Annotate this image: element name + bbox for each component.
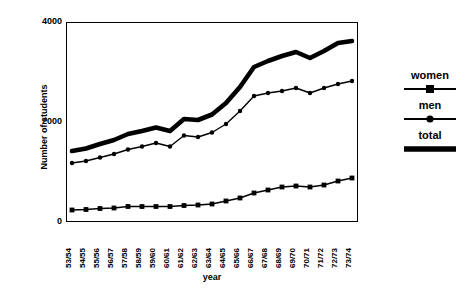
x-tick-label: 72/73 — [328, 226, 342, 268]
x-tick-label: 58/59 — [132, 226, 146, 268]
data-point-men — [252, 94, 256, 98]
x-tick-label: 70/71 — [300, 226, 314, 268]
data-point-women — [140, 204, 145, 209]
legend-sample-women — [386, 82, 474, 96]
data-point-men — [224, 122, 228, 126]
x-tick-label: 54/55 — [76, 226, 90, 268]
x-tick-label: 57/58 — [118, 226, 132, 268]
data-point-women — [252, 191, 257, 196]
data-point-men — [98, 155, 102, 159]
x-tick-label: 60/61 — [160, 226, 174, 268]
chart-legend: women men total — [386, 66, 474, 156]
legend-sample-total — [386, 142, 474, 156]
x-tick-label: 69/70 — [286, 226, 300, 268]
y-tick-label-0: 0 — [28, 217, 62, 226]
x-tick-label: 66/67 — [244, 226, 258, 268]
data-point-men — [140, 144, 144, 148]
legend-label-total: total — [386, 128, 474, 142]
x-tick-label: 62/63 — [188, 226, 202, 268]
data-point-women — [266, 188, 271, 193]
data-point-women — [112, 206, 117, 211]
data-point-men — [70, 161, 74, 165]
data-point-women — [322, 183, 327, 188]
legend-sample-men — [386, 112, 474, 126]
data-point-women — [210, 202, 215, 207]
y-tick-label-4000: 4000 — [28, 17, 62, 26]
data-point-men — [322, 86, 326, 90]
data-point-women — [70, 208, 75, 213]
data-point-men — [210, 130, 214, 134]
circle-marker-icon — [402, 112, 458, 126]
data-point-men — [308, 91, 312, 95]
data-point-men — [154, 141, 158, 145]
x-tick-label: 68/69 — [272, 226, 286, 268]
data-point-men — [238, 109, 242, 113]
y-axis-tick-labels: 4000 2000 0 — [28, 0, 62, 298]
data-point-men — [126, 147, 130, 151]
data-point-women — [126, 204, 131, 209]
legend-label-men: men — [386, 98, 474, 112]
x-tick-label: 64/65 — [216, 226, 230, 268]
y-tick-label-2000: 2000 — [28, 117, 62, 126]
x-tick-label: 63/64 — [202, 226, 216, 268]
x-tick-label: 59/60 — [146, 226, 160, 268]
data-point-women — [84, 207, 89, 212]
x-tick-label: 55/56 — [90, 226, 104, 268]
data-point-men — [182, 133, 186, 137]
x-tick-label: 71/72 — [314, 226, 328, 268]
data-point-women — [350, 176, 355, 181]
legend-label-women: women — [386, 68, 474, 82]
data-point-women — [294, 184, 299, 189]
data-point-men — [294, 86, 298, 90]
chart-figure: Number of students 4000 2000 0 53/5454/5… — [0, 0, 476, 298]
x-axis-tick-labels: 53/5454/5555/5656/5757/5858/5959/6060/61… — [66, 222, 358, 268]
data-point-men — [84, 159, 88, 163]
data-point-men — [280, 89, 284, 93]
data-point-men — [112, 152, 116, 156]
data-point-women — [224, 199, 229, 204]
data-point-women — [98, 206, 103, 211]
plot-lines — [66, 22, 358, 222]
x-axis-title: year — [66, 272, 358, 282]
data-point-women — [336, 179, 341, 184]
data-point-men — [196, 135, 200, 139]
thick-line-icon — [402, 142, 458, 156]
data-point-women — [196, 203, 201, 208]
data-point-women — [154, 204, 159, 209]
data-point-women — [182, 203, 187, 208]
data-point-men — [266, 91, 270, 95]
data-point-men — [168, 144, 172, 148]
x-tick-label: 61/62 — [174, 226, 188, 268]
x-tick-label: 67/68 — [258, 226, 272, 268]
data-point-women — [308, 185, 313, 190]
square-marker-icon — [402, 82, 458, 96]
data-point-men — [336, 82, 340, 86]
x-tick-label: 56/57 — [104, 226, 118, 268]
data-point-men — [350, 79, 354, 83]
x-tick-label: 73/74 — [342, 226, 356, 268]
data-point-women — [238, 196, 243, 201]
x-tick-label: 65/66 — [230, 226, 244, 268]
data-point-women — [168, 204, 173, 209]
data-point-women — [280, 185, 285, 190]
x-tick-label: 53/54 — [62, 226, 76, 268]
